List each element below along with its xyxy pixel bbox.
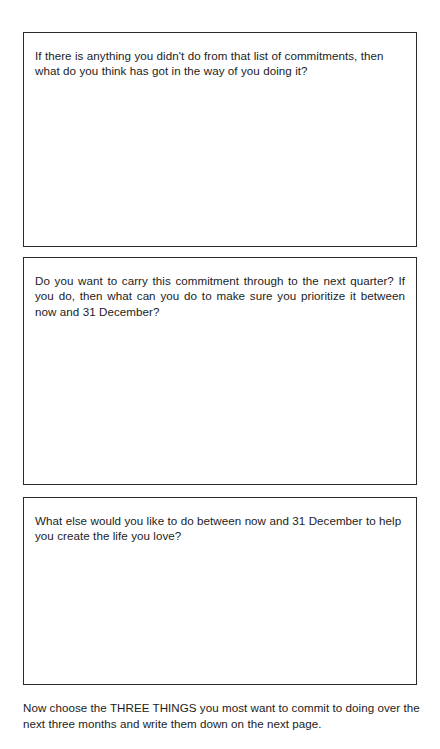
answer-box-additional-intentions[interactable]: What else would you like to do between n… — [23, 497, 417, 685]
prompt-text-reflection-obstacles: If there is anything you didn't do from … — [24, 33, 416, 79]
footer-instruction-text: Now choose the THREE THINGS you most wan… — [23, 700, 421, 731]
answer-box-carry-forward-commitment[interactable]: Do you want to carry this commitment thr… — [23, 257, 417, 485]
answer-box-reflection-obstacles[interactable]: If there is anything you didn't do from … — [23, 32, 417, 247]
prompt-text-additional-intentions: What else would you like to do between n… — [24, 498, 416, 544]
prompt-text-carry-forward-commitment: Do you want to carry this commitment thr… — [24, 258, 416, 319]
worksheet-page: If there is anything you didn't do from … — [0, 0, 440, 749]
